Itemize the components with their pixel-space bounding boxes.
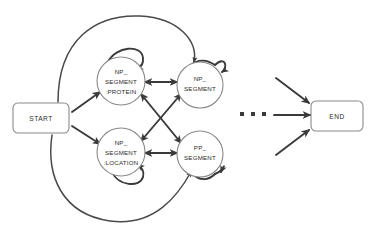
- np-segment-protein-label-line3: :PROTEIN: [106, 88, 137, 95]
- ellipsis-dot-1: [240, 112, 244, 116]
- node-np-segment-protein[interactable]: NP_ SEGMENT :PROTEIN: [97, 57, 145, 105]
- np-segment-location-label-line2: SEGMENT: [105, 149, 137, 156]
- ellipsis-dot-3: [262, 112, 266, 116]
- end-label: END: [329, 113, 344, 120]
- ellipsis-dot-2: [251, 112, 255, 116]
- np-segment-label-line1: NP_: [194, 75, 207, 82]
- edge-upper-to-end: [276, 78, 309, 103]
- np-segment-label-line2: SEGMENT: [184, 85, 216, 92]
- edge-lower-to-end: [276, 130, 309, 155]
- np-segment-location-label-line1: NP_: [115, 139, 128, 146]
- edge-start-to-np-location: [72, 126, 100, 144]
- node-pp-segment[interactable]: PP_ SEGMENT: [177, 131, 223, 177]
- np-segment-protein-label-line2: SEGMENT: [105, 78, 137, 85]
- pp-segment-label-line2: SEGMENT: [184, 154, 216, 161]
- state-transition-graph: START NP_ SEGMENT :PROTEIN NP_ SEGMENT :…: [0, 0, 383, 243]
- node-np-segment[interactable]: NP_ SEGMENT: [177, 62, 223, 108]
- ellipsis-indicator: [240, 112, 266, 116]
- node-start[interactable]: START: [13, 103, 69, 133]
- node-end[interactable]: END: [311, 101, 363, 131]
- node-np-segment-location[interactable]: NP_ SEGMENT :LOCATION: [97, 128, 145, 176]
- np-segment-location-label-line3: :LOCATION: [104, 159, 139, 166]
- diagram-canvas: START NP_ SEGMENT :PROTEIN NP_ SEGMENT :…: [0, 0, 383, 243]
- edge-start-to-np-protein: [72, 92, 100, 112]
- start-label: START: [29, 115, 52, 122]
- pp-segment-label-line1: PP_: [194, 144, 207, 151]
- np-segment-protein-label-line1: NP_: [115, 68, 128, 75]
